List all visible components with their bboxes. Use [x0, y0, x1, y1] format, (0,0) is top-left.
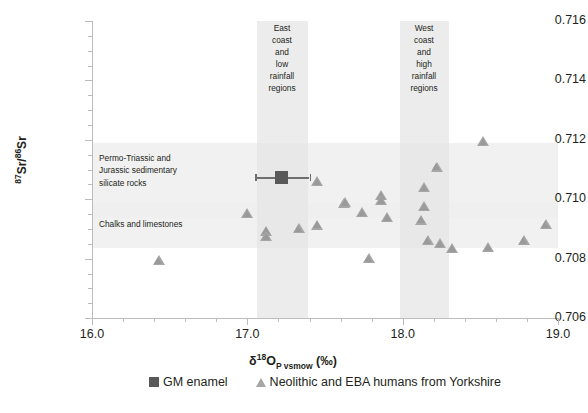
x-axis-tick-minor	[185, 318, 186, 322]
y-axis-tick-minor	[88, 95, 92, 96]
x-axis-title: δ18OP vsmow (‰)	[193, 352, 393, 371]
x-axis-title-o: O	[266, 354, 276, 368]
legend-item-neolithic-eba: Neolithic and EBA humans from Yorkshire	[256, 375, 501, 389]
error-bar-cap	[255, 174, 257, 181]
data-point-triangle	[518, 235, 530, 245]
x-axis-title-sub-pvsmow: P vsmow	[276, 361, 313, 371]
data-point-triangle	[482, 242, 494, 252]
data-point-triangle	[540, 219, 552, 229]
y-axis-tick-major	[85, 199, 92, 200]
x-axis-tick-major	[403, 318, 404, 325]
data-point-triangle	[293, 223, 305, 233]
y-axis-tick-label: 0.706	[528, 311, 586, 324]
y-axis-tick-major	[85, 318, 92, 319]
data-point-triangle	[446, 243, 458, 253]
y-axis-tick-minor	[88, 110, 92, 111]
geology-note-chalks-line1: Chalks and limestones	[99, 219, 182, 229]
data-point-triangle	[422, 235, 434, 245]
x-axis-tick-major	[247, 318, 248, 325]
x-axis-tick-minor	[123, 318, 124, 322]
data-point-triangle	[477, 136, 489, 146]
y-axis-tick-minor	[88, 36, 92, 37]
vertical-band-east-coast-label: Eastcoastandlowrainfallregions	[259, 22, 305, 95]
x-axis-tick-minor	[465, 318, 466, 322]
x-axis-tick-label: 18.0	[373, 328, 433, 341]
y-axis-tick-minor	[88, 214, 92, 215]
x-axis-tick-minor	[341, 318, 342, 322]
y-axis-tick-minor	[88, 274, 92, 275]
data-point-triangle	[375, 195, 387, 205]
y-axis-tick-label: 0.714	[528, 73, 586, 86]
chart-legend: GM enamel Neolithic and EBA humans from …	[92, 372, 558, 392]
y-axis-tick-minor	[88, 51, 92, 52]
y-axis-title-sr: Sr	[15, 136, 29, 149]
y-axis-tick-major	[85, 140, 92, 141]
data-point-triangle	[431, 162, 443, 172]
legend-item-neolithic-eba-label: Neolithic and EBA humans from Yorkshire	[270, 375, 501, 389]
triangle-marker-icon	[256, 378, 266, 387]
geology-note-line3: silicate rocks	[99, 178, 147, 188]
y-axis-tick-label: 0.710	[528, 192, 586, 205]
geology-note-chalks-limestones: Chalks and limestones	[99, 218, 182, 230]
y-axis-tick-label: 0.712	[528, 133, 586, 146]
x-axis-tick-minor	[278, 318, 279, 322]
y-axis-tick-major	[85, 21, 92, 22]
x-axis-tick-minor	[434, 318, 435, 322]
data-point-triangle	[434, 238, 446, 248]
y-axis-tick-minor	[88, 303, 92, 304]
x-axis-tick-minor	[216, 318, 217, 322]
geology-note-permo-triassic: Permo-Triassic and Jurassic sedimentary …	[99, 152, 177, 189]
y-axis-tick-minor	[88, 184, 92, 185]
y-axis-tick-major	[85, 259, 92, 260]
geology-note-line2: Jurassic sedimentary	[99, 165, 177, 175]
y-axis-tick-minor	[88, 244, 92, 245]
x-axis-tick-label: 16.0	[62, 328, 122, 341]
x-axis-tick-minor	[527, 318, 528, 322]
y-axis-line	[92, 21, 93, 318]
y-axis-tick-minor	[88, 170, 92, 171]
x-axis-tick-minor	[372, 318, 373, 322]
x-axis-tick-minor	[310, 318, 311, 322]
y-axis-tick-minor	[88, 288, 92, 289]
y-axis-title-sup-87: 87	[13, 174, 23, 183]
y-axis-tick-label: 0.708	[528, 252, 586, 265]
x-axis-title-delta: δ	[249, 354, 257, 368]
x-axis-tick-minor	[496, 318, 497, 322]
data-point-triangle	[415, 215, 427, 225]
y-axis-tick-minor	[88, 155, 92, 156]
data-point-triangle	[363, 253, 375, 263]
geology-note-line1: Permo-Triassic and	[99, 153, 171, 163]
data-point-triangle	[311, 220, 323, 230]
y-axis-tick-minor	[88, 229, 92, 230]
data-point-triangle	[356, 207, 368, 217]
x-axis-tick-label: 19.0	[528, 328, 588, 341]
data-point-square-gm-enamel	[275, 171, 288, 184]
y-axis-title-sup-86: 86	[13, 149, 23, 158]
x-axis-tick-major	[558, 318, 559, 325]
data-point-triangle	[418, 182, 430, 192]
data-point-triangle	[241, 208, 253, 218]
x-axis-tick-major	[92, 318, 93, 325]
y-axis-title: 87Sr/86Sr	[13, 115, 29, 205]
data-point-triangle	[311, 176, 323, 186]
y-axis-tick-minor	[88, 125, 92, 126]
data-point-triangle	[418, 201, 430, 211]
y-axis-title-sr-slash: Sr/	[15, 158, 29, 174]
y-axis-tick-major	[85, 80, 92, 81]
data-point-triangle	[381, 212, 393, 222]
data-point-triangle	[339, 197, 351, 207]
vertical-band-west-coast-label: Westcoastandhighrainfallregions	[401, 22, 447, 95]
x-axis-tick-label: 17.0	[217, 328, 277, 341]
x-axis-title-units: (‰)	[316, 354, 337, 368]
x-axis-line	[92, 318, 558, 319]
legend-item-gm-enamel: GM enamel	[149, 375, 228, 389]
legend-item-gm-enamel-label: GM enamel	[163, 375, 228, 389]
square-marker-icon	[149, 377, 159, 387]
y-axis-tick-minor	[88, 66, 92, 67]
y-axis-tick-label: 0.716	[528, 14, 586, 27]
data-point-triangle	[260, 231, 272, 241]
data-point-triangle	[153, 255, 165, 265]
x-axis-tick-minor	[154, 318, 155, 322]
x-axis-title-sup-18: 18	[257, 352, 266, 362]
